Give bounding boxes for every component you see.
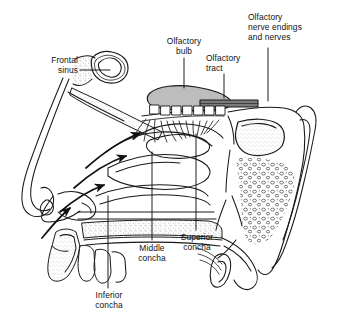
sphenoid-sinus-cavity xyxy=(236,119,285,155)
middle-concha-body xyxy=(108,155,210,190)
label-olfactory-tract: Olfactory tract xyxy=(206,53,268,73)
nasal-cavity-wall xyxy=(106,124,223,152)
label-frontal-sinus: Frontal sinus xyxy=(14,55,78,75)
nasopharynx xyxy=(196,248,231,287)
label-inferior-concha: Inferior concha xyxy=(80,290,138,310)
soft-palate xyxy=(222,238,257,290)
inferior-concha-body xyxy=(96,185,210,205)
frontal-sinus-cavity xyxy=(98,58,121,77)
figure-canvas: Frontal sinus Olfactory bulb Olfactory t… xyxy=(0,0,340,328)
label-olfactory-nerve-endings: Olfactory nerve endings and nerves xyxy=(248,12,334,43)
olfactory-cells xyxy=(150,105,225,115)
external-nose-outline xyxy=(22,78,80,222)
label-middle-concha: Middle concha xyxy=(124,243,180,263)
